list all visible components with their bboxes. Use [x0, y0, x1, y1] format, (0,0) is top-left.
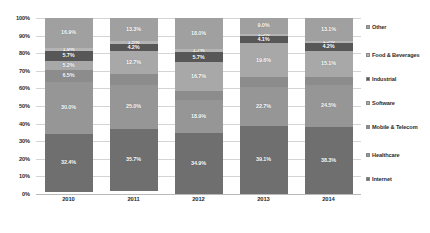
legend-item-label: Mobile & Telecom [372, 124, 418, 132]
bar-segment-label: 18.0% [191, 31, 206, 37]
bar-segment[interactable]: 19.6% [240, 43, 288, 77]
legend-swatch-icon [366, 153, 370, 157]
bar-segment-label: 34.9% [191, 161, 206, 167]
bar-segment[interactable]: 39.1% [240, 126, 288, 194]
bar-segment-label: 9.0% [258, 23, 270, 29]
bar-segment[interactable] [110, 74, 158, 85]
bar-segment-label: 32.4% [61, 160, 76, 166]
bar-column[interactable]: 13.3%1.5%4.2%12.7%25.0%35.7% [110, 18, 158, 194]
bar-segment[interactable]: 4.2% [305, 43, 353, 50]
y-axis-tick-label: 0% [22, 191, 30, 197]
bar-segment[interactable]: 34.9% [175, 133, 223, 194]
bar-segment-label: 13.1% [321, 27, 336, 33]
bar-segment-label: 24.5% [321, 103, 336, 109]
x-axis-tick-label: 2013 [240, 196, 288, 202]
bar-segment-label: 4.2% [323, 44, 335, 50]
y-axis-tick-label: 100% [16, 15, 30, 21]
y-axis: 0%10%20%30%40%50%60%70%80%90%100% [0, 18, 34, 194]
bar-segment[interactable]: 22.7% [240, 87, 288, 126]
bar-segment[interactable]: 30.0% [45, 82, 93, 135]
bar-column[interactable]: 9.0%1.5%4.1%19.6%22.7%39.1% [240, 18, 288, 194]
bar-segment[interactable]: 32.4% [45, 134, 93, 191]
bar-segment[interactable]: 4.1% [240, 36, 288, 43]
bar-segment-label: 4.1% [258, 37, 270, 43]
bar-segment-label: 13.3% [126, 27, 141, 33]
bar-segment-label: 19.6% [256, 58, 271, 64]
bar-segment-label: 39.1% [256, 157, 271, 163]
bar-segment-label: 5.7% [63, 53, 75, 59]
bar-segment-label: 18.9% [191, 114, 206, 120]
bar-segment-label: 16.9% [61, 30, 76, 36]
bar-segment[interactable]: 5.7% [45, 51, 93, 61]
bar-segment-label: 5.7% [193, 55, 205, 61]
bar-segment-label: 38.3% [321, 158, 336, 164]
legend-item-label: Industrial [372, 76, 396, 84]
legend-swatch-icon [366, 25, 370, 29]
bar-segment[interactable]: 25.0% [110, 85, 158, 129]
legend-item[interactable]: Other [366, 24, 386, 32]
stacked-bar-chart: 0%10%20%30%40%50%60%70%80%90%100% 16.9%1… [0, 0, 430, 233]
bar-segment[interactable]: 18.9% [175, 100, 223, 133]
x-axis-tick-label: 2010 [45, 196, 93, 202]
y-axis-tick-label: 80% [19, 50, 30, 56]
bar-segment[interactable]: 6.5% [45, 70, 93, 81]
bar-segment[interactable]: 24.5% [305, 85, 353, 128]
x-axis-tick-label: 2011 [110, 196, 158, 202]
y-axis-tick-label: 20% [19, 156, 30, 162]
legend-swatch-icon [366, 177, 370, 181]
x-axis: 20102011201220132014 [36, 196, 361, 210]
bar-segment[interactable]: 13.3% [110, 18, 158, 41]
legend-item-label: Internet [372, 176, 392, 184]
legend-item[interactable]: Food & Beverages [366, 52, 420, 60]
bar-segment-label: 35.7% [126, 157, 141, 163]
y-axis-tick-label: 60% [19, 85, 30, 91]
legend-swatch-icon [366, 125, 370, 129]
bar-segment[interactable]: 15.1% [305, 51, 353, 77]
bar-segment[interactable]: 5.2% [45, 61, 93, 70]
bar-segment[interactable]: 9.0% [240, 18, 288, 34]
bar-segment[interactable]: 12.7% [110, 51, 158, 73]
bar-segment-label: 5.2% [63, 63, 75, 69]
x-axis-tick-label: 2014 [305, 196, 353, 202]
legend-swatch-icon [366, 101, 370, 105]
y-axis-tick-label: 50% [19, 103, 30, 109]
legend-item-label: Healthcare [372, 152, 400, 160]
legend-item[interactable]: Industrial [366, 76, 396, 84]
gridline [36, 194, 361, 195]
legend-item-label: Food & Beverages [372, 52, 420, 60]
bar-segment[interactable]: 38.3% [305, 127, 353, 194]
bar-segment[interactable]: 35.7% [110, 129, 158, 192]
legend-item-label: Other [372, 24, 386, 32]
bar-segment[interactable] [240, 77, 288, 86]
legend-swatch-icon [366, 77, 370, 81]
bar-segment[interactable] [175, 91, 223, 100]
legend-item[interactable]: Software [366, 100, 395, 108]
bar-column[interactable]: 18.0%1.7%5.7%16.7%18.9%34.9% [175, 18, 223, 194]
legend-swatch-icon [366, 53, 370, 57]
bar-segment[interactable]: 16.9% [45, 18, 93, 48]
bar-group: 16.9%1.9%5.7%5.2%6.5%30.0%32.4%13.3%1.5%… [36, 18, 361, 194]
bar-segment-label: 30.0% [61, 105, 76, 111]
y-axis-tick-label: 70% [19, 68, 30, 74]
bar-column[interactable]: 16.9%1.9%5.7%5.2%6.5%30.0%32.4% [45, 18, 93, 194]
bar-segment[interactable]: 5.7% [175, 52, 223, 62]
legend-item[interactable]: Internet [366, 176, 392, 184]
bar-column[interactable]: 13.1%1.5%4.2%15.1%24.5%38.3% [305, 18, 353, 194]
plot-area: 16.9%1.9%5.7%5.2%6.5%30.0%32.4%13.3%1.5%… [36, 18, 361, 194]
bar-segment-label: 16.7% [191, 74, 206, 80]
legend-item[interactable]: Mobile & Telecom [366, 124, 418, 132]
y-axis-tick-label: 40% [19, 121, 30, 127]
bar-segment[interactable]: 4.2% [110, 44, 158, 51]
legend-item[interactable]: Healthcare [366, 152, 400, 160]
bar-segment-label: 12.7% [126, 60, 141, 66]
bar-segment[interactable]: 13.1% [305, 18, 353, 41]
y-axis-tick-label: 90% [19, 33, 30, 39]
bar-segment[interactable]: 16.7% [175, 62, 223, 91]
bar-segment-label: 4.2% [128, 45, 140, 51]
bar-segment-label: 6.5% [63, 73, 75, 79]
bar-segment-label: 15.1% [321, 61, 336, 67]
legend-item-label: Software [372, 100, 395, 108]
bar-segment[interactable]: 18.0% [175, 18, 223, 49]
bar-segment[interactable] [305, 77, 353, 85]
y-axis-tick-label: 30% [19, 138, 30, 144]
